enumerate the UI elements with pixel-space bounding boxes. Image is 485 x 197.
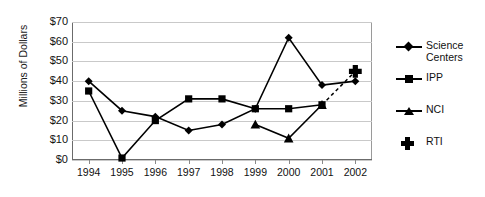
x-axis-tick: [155, 160, 156, 164]
legend-item-label: NCI: [426, 104, 444, 116]
gridline: [72, 42, 372, 43]
y-axis-tick-label: $20: [22, 115, 68, 126]
x-axis-tick: [189, 160, 190, 164]
legend-item-label: RTI: [426, 136, 443, 148]
x-axis-tick: [289, 160, 290, 164]
legend-item-label: Science Centers: [426, 40, 463, 63]
gridline: [72, 140, 372, 141]
plot-area: [72, 22, 372, 160]
gridline: [72, 22, 372, 23]
x-axis-tick: [122, 160, 123, 164]
legend-item[interactable]: NCI: [396, 104, 444, 117]
legend-item[interactable]: IPP: [396, 72, 443, 85]
triangle-marker-icon: [396, 105, 422, 117]
legend-item[interactable]: Science Centers: [396, 40, 463, 63]
gridline: [72, 101, 372, 102]
gridline: [72, 81, 372, 82]
plus-marker-icon: [396, 137, 422, 149]
diamond-marker-icon: [396, 41, 422, 53]
x-axis-tick-label: 2002: [333, 166, 377, 178]
gridline: [72, 121, 372, 122]
y-axis-tick-label: $70: [22, 16, 68, 27]
legend-item[interactable]: RTI: [396, 136, 443, 149]
x-axis-tick: [255, 160, 256, 164]
y-axis-tick-label: $40: [22, 75, 68, 86]
y-axis-tick-label: $10: [22, 134, 68, 145]
y-axis-tick-label: $0: [22, 154, 68, 165]
y-axis-tick-label: $50: [22, 55, 68, 66]
y-axis-tick-label: $30: [22, 95, 68, 106]
legend-item-label: IPP: [426, 72, 443, 84]
y-axis-tick-label: $60: [22, 36, 68, 47]
square-marker-icon: [396, 73, 422, 85]
x-axis-tick: [222, 160, 223, 164]
gridline: [72, 61, 372, 62]
x-axis-tick: [322, 160, 323, 164]
chart-figure: Millions of Dollars $70$60$50$40$30$20$1…: [0, 0, 485, 197]
x-axis-tick: [89, 160, 90, 164]
x-axis-tick: [355, 160, 356, 164]
